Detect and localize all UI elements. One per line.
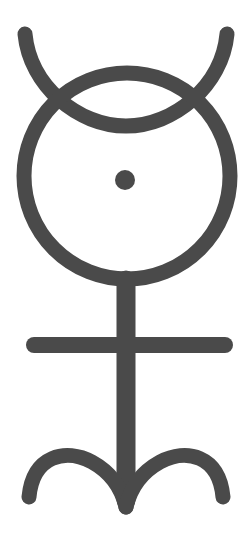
center-dot-icon bbox=[115, 170, 135, 190]
monas-hieroglyphica-svg bbox=[0, 0, 251, 543]
left-bottom-arc-icon bbox=[29, 455, 126, 507]
symbol-canvas: Monas Hieroglyphica Crescent horns above… bbox=[0, 0, 251, 543]
right-bottom-arc-icon bbox=[126, 455, 223, 507]
